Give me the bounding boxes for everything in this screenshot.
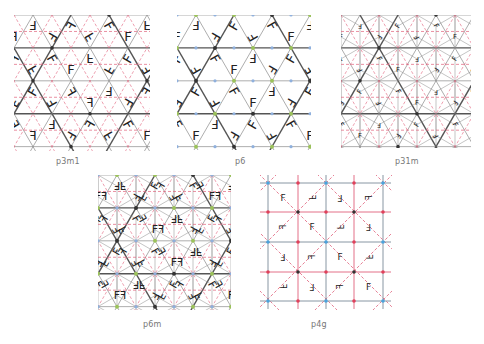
motif-f-glyph: F (280, 193, 285, 203)
rotation-center-icon (134, 305, 137, 308)
motif-f-glyph: F (143, 128, 150, 143)
symmetry-point-icon (324, 240, 328, 244)
rotation-center-icon (415, 112, 419, 116)
motif-f-glyph: F (306, 18, 311, 33)
rotation-center-icon (134, 206, 138, 210)
rotation-center-icon (210, 305, 213, 308)
caption-p6: p6 (235, 157, 246, 166)
motif-f-glyph: F (249, 95, 256, 110)
motif-f-glyph: F (335, 284, 345, 289)
rotation-center-icon (210, 272, 214, 276)
rotation-center-icon (194, 46, 197, 49)
rotation-center-icon (88, 112, 92, 116)
motif-f-glyph: F (158, 223, 164, 236)
motif-f-glyph: F (364, 254, 374, 259)
rotation-center-icon (172, 305, 175, 308)
motif-f-glyph: F (143, 18, 150, 33)
symmetry-point-icon (266, 299, 270, 303)
motif-f-glyph: F (230, 62, 237, 77)
motif-f-glyph: F (415, 99, 419, 107)
symmetry-point-icon (324, 210, 328, 214)
motif-f-glyph: F (29, 18, 36, 33)
rotation-center-icon (213, 46, 217, 50)
rotation-center-icon (191, 239, 195, 243)
motif-f-glyph: F (120, 179, 126, 192)
rotation-center-icon (289, 112, 293, 116)
symmetry-point-icon (324, 299, 328, 303)
rotation-center-icon (191, 305, 195, 309)
motif-f-glyph: F (307, 195, 317, 200)
rotation-center-icon (232, 112, 235, 115)
motif-f-glyph: F (228, 179, 231, 192)
panel-p6: FFFFFFFFFFFFFFFFFFFFFFFFFFFFFFFFFFFFFFFF… (177, 15, 311, 150)
motif-f-glyph: F (86, 51, 93, 66)
symmetry-point-icon (266, 270, 270, 274)
motif-f-glyph: F (287, 29, 294, 44)
rotation-center-icon (251, 145, 254, 148)
caption-p6m: p6m (143, 320, 162, 329)
rotation-center-icon (172, 206, 176, 210)
motif-f-glyph: F (209, 190, 215, 203)
motif-f-glyph: F (280, 252, 285, 262)
rotation-center-icon (213, 79, 216, 82)
rotation-center-icon (153, 239, 157, 243)
motif-f-glyph: F (29, 128, 36, 143)
symmetry-point-icon (352, 181, 356, 185)
motif-f-glyph: F (306, 128, 311, 143)
motif-f-glyph: F (48, 117, 55, 132)
symmetry-point-icon (266, 210, 270, 214)
rotation-center-icon (210, 206, 214, 210)
motif-f-glyph: F (358, 132, 362, 140)
motif-f-glyph: F (196, 245, 202, 258)
motif-f-glyph: F (139, 278, 145, 291)
rotation-center-icon (191, 272, 194, 275)
motif-f-glyph: F (249, 51, 256, 66)
motif-f-glyph: F (171, 256, 177, 269)
rotation-center-icon (115, 272, 118, 275)
symmetry-point-icon (296, 240, 300, 244)
motif-f-glyph: F (124, 29, 131, 44)
rotation-center-icon (145, 79, 149, 83)
symmetry-point-icon (266, 181, 270, 185)
panel-p3m1: FFFFFFFFFFFFFFFFFFFFFFFFFFFFFFFFFFFFFFFF… (14, 15, 150, 151)
panel-p31m: FFFFFFFFFFFFFFFFFFFFFFFFFFFFFFFFFFFFFFFF… (341, 15, 471, 148)
motif-f-glyph: F (192, 128, 199, 143)
symmetry-point-icon (324, 270, 328, 274)
motif-f-glyph: F (396, 66, 400, 74)
motif-f-glyph: F (358, 22, 362, 30)
motif-f-glyph: F (453, 33, 457, 41)
rotation-center-icon (153, 272, 156, 275)
rotation-center-icon (270, 145, 274, 149)
symmetry-point-icon (381, 240, 385, 244)
motif-f-glyph: F (434, 88, 438, 96)
rotation-center-icon (213, 112, 217, 116)
motif-f-glyph: F (268, 84, 275, 99)
panel-p6m: FFFFFFFFFFFFFFFFFFFFFFFFFFFFFFFFFFFFFFFF… (98, 175, 231, 310)
motif-f-glyph: F (309, 222, 314, 232)
motif-f-glyph: F (366, 282, 371, 292)
symmetry-point-icon (381, 299, 385, 303)
rotation-center-icon (270, 79, 274, 83)
motif-f-glyph: F (215, 190, 221, 203)
motif-f-glyph: F (337, 252, 342, 262)
rotation-center-icon (115, 239, 119, 243)
rotation-center-icon (153, 305, 157, 309)
motif-f-glyph: F (177, 212, 183, 225)
rotation-center-icon (115, 206, 118, 209)
symmetry-point-icon (352, 240, 356, 244)
motif-f-glyph: F (337, 193, 342, 203)
symmetry-point-icon (352, 210, 356, 214)
rotation-center-icon (172, 272, 176, 276)
rotation-center-icon (115, 305, 119, 309)
caption-p4g: p4g (311, 320, 327, 329)
rotation-center-icon (358, 79, 362, 83)
motif-f-glyph: F (192, 18, 199, 33)
caption-p3m1: p3m1 (56, 157, 80, 166)
motif-f-glyph: F (101, 190, 107, 203)
rotation-center-icon (134, 239, 137, 242)
motif-f-glyph: F (309, 282, 314, 292)
motif-f-glyph: F (228, 289, 231, 302)
rotation-center-icon (232, 79, 236, 83)
symmetry-point-icon (381, 210, 385, 214)
motif-f-glyph: F (278, 284, 288, 289)
